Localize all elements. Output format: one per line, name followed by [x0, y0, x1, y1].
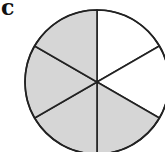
fraction-circle [0, 0, 165, 152]
